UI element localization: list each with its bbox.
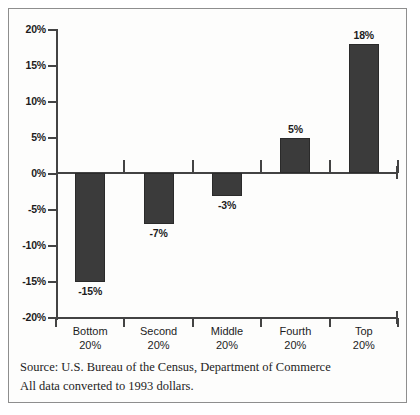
y-axis-tick bbox=[48, 281, 57, 283]
bar bbox=[212, 173, 242, 196]
y-axis-tick-label: 0% bbox=[2, 167, 46, 179]
y-axis-tick-label: -20% bbox=[2, 311, 46, 323]
y-axis-tick-label: -10% bbox=[2, 239, 46, 251]
x-axis-end-cap bbox=[396, 311, 398, 324]
category-label-line: Top bbox=[330, 324, 398, 338]
y-axis-tick bbox=[48, 209, 57, 211]
category-label-line: Second bbox=[124, 324, 192, 338]
x-axis-line bbox=[56, 317, 398, 319]
category-label-line: 20% bbox=[124, 338, 192, 352]
category-label-line: 20% bbox=[193, 338, 261, 352]
zero-line-end-cap bbox=[396, 166, 398, 179]
bar-value-label: 5% bbox=[265, 123, 325, 135]
y-axis-tick-label: -5% bbox=[2, 203, 46, 215]
bar bbox=[144, 173, 174, 224]
zero-line-tick bbox=[123, 160, 125, 173]
bar bbox=[349, 44, 379, 173]
zero-line-tick bbox=[192, 160, 194, 173]
category-label-line: Middle bbox=[193, 324, 261, 338]
x-axis-category-label: Top20% bbox=[330, 324, 398, 352]
category-label-line: 20% bbox=[330, 338, 398, 352]
x-axis-category-label: Fourth20% bbox=[261, 324, 329, 352]
category-label-line: 20% bbox=[56, 338, 124, 352]
category-label-line: Bottom bbox=[56, 324, 124, 338]
y-axis-tick-label: 10% bbox=[2, 95, 46, 107]
y-axis-tick bbox=[48, 245, 57, 247]
footnote-source: Source: U.S. Bureau of the Census, Depar… bbox=[20, 358, 390, 377]
y-axis-tick bbox=[48, 173, 57, 175]
y-axis-tick-label: -15% bbox=[2, 275, 46, 287]
bar bbox=[280, 138, 310, 173]
bar bbox=[75, 173, 105, 282]
x-axis-category-label: Bottom20% bbox=[56, 324, 124, 352]
category-label-line: 20% bbox=[261, 338, 329, 352]
y-axis-tick bbox=[48, 65, 57, 67]
y-axis-tick bbox=[48, 317, 57, 319]
y-axis-labels: 20%15%10%5%0%-5%-10%-15%-20% bbox=[0, 0, 46, 415]
bar-value-label: -7% bbox=[129, 227, 189, 239]
y-axis-tick-label: 20% bbox=[2, 23, 46, 35]
x-axis-category-label: Middle20% bbox=[193, 324, 261, 352]
zero-line-tick bbox=[260, 160, 262, 173]
y-axis-tick-label: 15% bbox=[2, 59, 46, 71]
category-label-line: Fourth bbox=[261, 324, 329, 338]
y-axis-tick-label: 5% bbox=[2, 131, 46, 143]
bar-value-label: -15% bbox=[60, 285, 120, 297]
x-axis-category-label: Second20% bbox=[124, 324, 192, 352]
bar-value-label: -3% bbox=[197, 199, 257, 211]
y-axis-tick bbox=[48, 137, 57, 139]
chart-footnote: Source: U.S. Bureau of the Census, Depar… bbox=[20, 358, 390, 396]
y-axis-tick bbox=[48, 29, 57, 31]
chart-figure: 20%15%10%5%0%-5%-10%-15%-20% -15%-7%-3%5… bbox=[0, 0, 420, 415]
bar-value-label: 18% bbox=[334, 29, 394, 41]
footnote-note: All data converted to 1993 dollars. bbox=[20, 377, 390, 396]
zero-line-tick bbox=[329, 160, 331, 173]
y-axis-tick bbox=[48, 101, 57, 103]
